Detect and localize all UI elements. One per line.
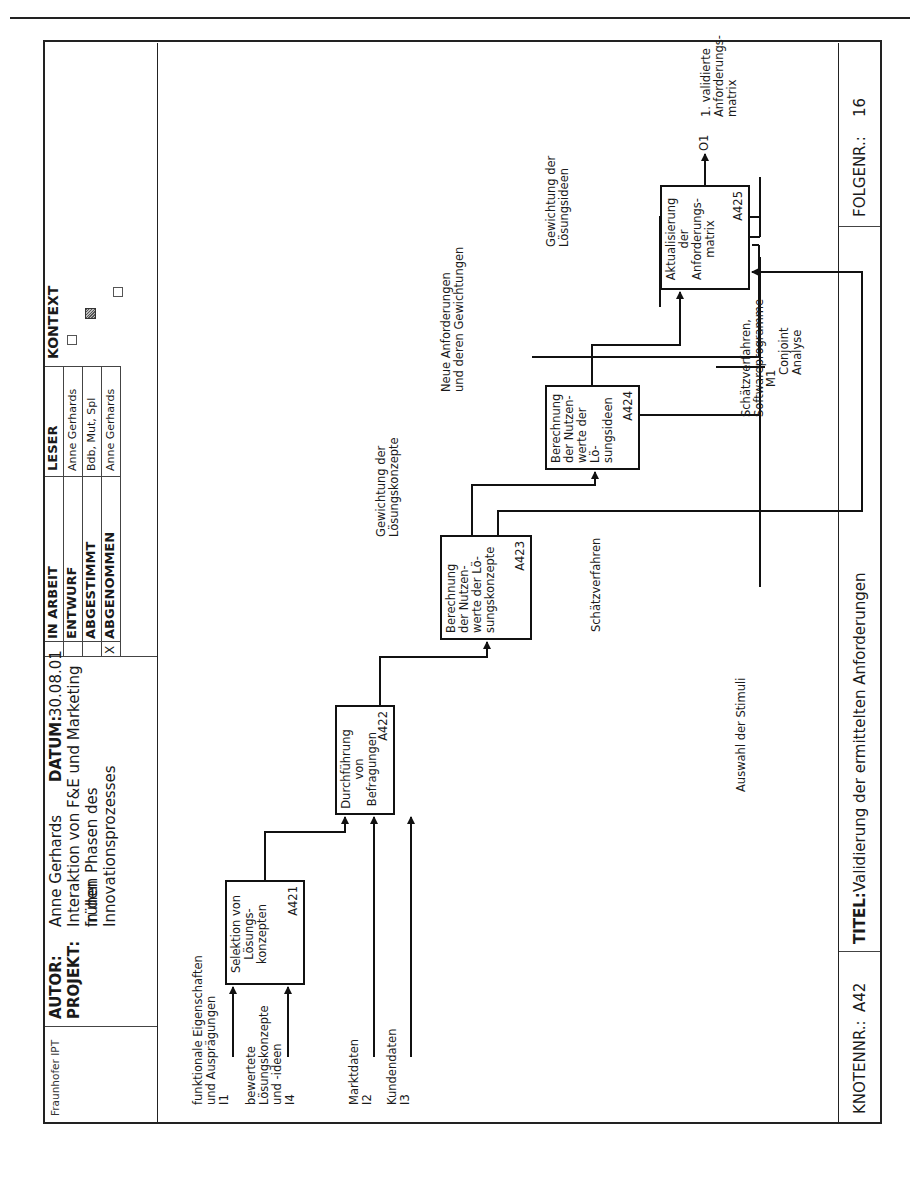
input-code: I3 (399, 1029, 412, 1105)
input-code: I4 (284, 1005, 297, 1105)
annotation-gewichtung-ideen: Gewichtung derLösungsideen (545, 156, 571, 247)
activity-text: sungsideen (602, 388, 615, 463)
annotation-schaetzverfahren: Schätzverfahren (590, 538, 603, 632)
input-code: I1 (218, 955, 231, 1105)
input-code: I2 (361, 1039, 374, 1105)
activity-text: sungskonzepte (484, 543, 497, 633)
activity-id: A421 (287, 886, 300, 916)
input-label-i1: funktionale Eigenschaftenund Ausprägunge… (192, 955, 231, 1105)
activity-text: matrix (704, 194, 717, 284)
activity-box-a425[interactable]: Aktualisierung der Anforderungs- matrix … (660, 185, 750, 290)
activity-box-a421[interactable]: Selektion von Lösungs- konzepten A421 (225, 880, 305, 985)
output-label-o1: 1. validierteAnforderungs-matrix (700, 35, 739, 117)
mechanism-label-m1: M1 Conjoint Analyse (765, 327, 804, 387)
activity-id: A424 (622, 391, 635, 421)
activity-box-a424[interactable]: Berechnung der Nutzen- werte der Lö- sun… (545, 385, 640, 470)
annotation-neue-anforderungen: Neue Anforderungenund deren Gewichtungen (440, 247, 466, 392)
output-code-o1: O1 (698, 135, 711, 151)
annotation-gewichtung-konzepte: Gewichtung derLösungskonzepte (375, 437, 401, 537)
input-label-i2: Marktdaten I2 (348, 1039, 374, 1105)
input-label-i3: Kundendaten I3 (386, 1029, 412, 1105)
activity-text: konzepten (256, 890, 269, 978)
annotation-schaetzverfahren-software: Schätzverfahren,Softwareprogramme (740, 299, 766, 417)
activity-id: A425 (732, 191, 745, 221)
activity-text: werte der Lö- (576, 388, 602, 463)
activity-id: A423 (514, 541, 527, 571)
idef0-diagram-sheet: Fraunhofer IPT AUTOR: Anne Gerhards PROJ… (0, 0, 920, 1177)
input-label-i4: bewerteteLösungskonzepteund -ideen I4 (245, 1005, 297, 1105)
activity-box-a423[interactable]: Berechnung der Nutzen- werte der Lö- sun… (440, 535, 532, 640)
activity-id: A422 (377, 711, 390, 741)
activity-box-a422[interactable]: Durchführung von Befragungen A422 (335, 705, 395, 815)
annotation-auswahl-stimuli: Auswahl der Stimuli (735, 678, 748, 792)
activity-text: Befragungen (366, 729, 379, 809)
